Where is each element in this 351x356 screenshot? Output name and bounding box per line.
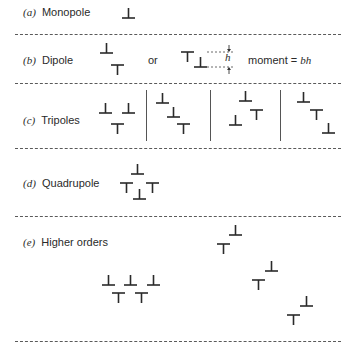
separator-line (15, 148, 341, 149)
dislocation-down-icon (250, 109, 263, 120)
separator-line (15, 341, 341, 342)
section-letter: (e) (23, 236, 35, 248)
section-label-quadrupole: (d) Quadrupole (23, 177, 99, 189)
dislocation-down-icon (252, 279, 265, 290)
dislocation-down-icon (217, 243, 230, 254)
separator-line (15, 83, 341, 84)
dislocation-up-icon (147, 275, 160, 286)
dislocation-down-icon (287, 314, 300, 325)
divider-line (280, 90, 281, 141)
dislocation-down-icon (111, 123, 124, 134)
moment-formula: moment = bh (248, 54, 311, 66)
section-name: Quadrupole (42, 177, 100, 189)
section-label-higher-orders: (e) Higher orders (23, 236, 108, 248)
dislocation-down-icon (120, 182, 133, 193)
dislocation-up-icon (297, 92, 310, 103)
moment-text: moment = (248, 54, 300, 66)
dislocation-down-icon (112, 292, 125, 303)
dislocation-up-icon (322, 123, 335, 134)
section-name: Higher orders (41, 236, 108, 248)
dislocation-down-icon (181, 51, 194, 62)
dislocation-down-icon (146, 182, 159, 193)
dislocation-up-icon (265, 261, 278, 272)
dislocation-up-icon (122, 103, 135, 114)
dislocation-up-icon (102, 275, 115, 286)
dislocation-up-icon (239, 91, 252, 102)
divider-line (210, 90, 211, 141)
dislocation-up-icon (124, 275, 137, 286)
section-label-dipole: (b) Dipole (23, 54, 73, 66)
divider-line (146, 90, 147, 141)
dislocation-down-icon (135, 292, 148, 303)
section-name: Monopole (42, 6, 90, 18)
dislocation-up-icon (229, 225, 242, 236)
dislocation-up-icon (100, 43, 113, 54)
dislocation-down-icon (177, 123, 190, 134)
dislocation-down-icon (111, 64, 124, 75)
section-letter: (b) (23, 54, 36, 66)
or-text: or (148, 54, 158, 66)
dislocation-up-icon (167, 107, 180, 118)
section-letter: (a) (23, 6, 36, 18)
dislocation-up-icon (122, 8, 135, 19)
section-name: Tripoles (41, 114, 80, 126)
separator-line (15, 216, 341, 217)
separator-line (15, 34, 341, 35)
moment-value: bh (300, 54, 311, 66)
dislocation-up-icon (133, 189, 146, 200)
dislocation-down-icon (310, 109, 323, 120)
dislocation-up-icon (229, 115, 242, 126)
h-label: h (225, 51, 231, 63)
dislocation-up-icon (99, 103, 112, 114)
dislocation-up-icon (131, 164, 144, 175)
dislocation-up-icon (156, 93, 169, 104)
section-letter: (c) (23, 114, 35, 126)
section-label-tripoles: (c) Tripoles (23, 114, 80, 126)
height-dimension-icon (205, 44, 240, 74)
section-name: Dipole (42, 54, 73, 66)
section-letter: (d) (23, 177, 36, 189)
dislocation-up-icon (300, 296, 313, 307)
section-label-monopole: (a) Monopole (23, 6, 90, 18)
